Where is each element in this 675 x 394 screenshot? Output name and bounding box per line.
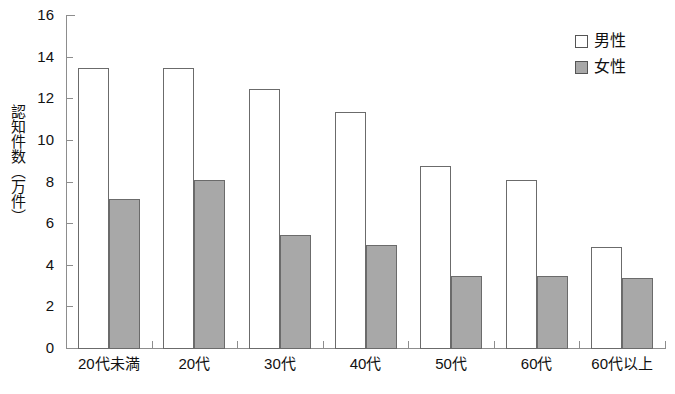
bar-female [366, 245, 397, 349]
y-tick-label: 2 [26, 298, 54, 313]
bar-female [451, 276, 482, 349]
y-tick-label: 14 [26, 49, 54, 64]
legend-swatch-male-icon [575, 35, 588, 48]
legend-swatch-female-icon [575, 61, 588, 74]
bar-male [506, 180, 537, 349]
bar-female [622, 278, 653, 349]
y-tick-label: 0 [26, 340, 54, 355]
y-tick-label: 16 [26, 7, 54, 22]
bar-male [249, 89, 280, 349]
y-tick-label: 4 [26, 257, 54, 272]
bar-male [78, 68, 109, 349]
bar-female [194, 180, 225, 349]
y-axis-title: 認知件数（万件） [4, 104, 26, 224]
legend-item-female: 女性 [575, 54, 626, 80]
bar-chart: 認知件数（万件） 1614121086420 20代未満20代30代40代50代… [0, 0, 675, 394]
bar-male [420, 166, 451, 349]
y-tick-label: 8 [26, 174, 54, 189]
chart-legend: 男性 女性 [575, 28, 626, 80]
bar-female [280, 235, 311, 349]
y-tick-label: 10 [26, 132, 54, 147]
y-tick-label: 12 [26, 90, 54, 105]
legend-label-male: 男性 [594, 33, 626, 49]
bar-male [591, 247, 622, 349]
bar-female [109, 199, 140, 349]
bar-male [335, 112, 366, 349]
legend-label-female: 女性 [594, 59, 626, 75]
bar-female [537, 276, 568, 349]
bar-male [163, 68, 194, 349]
y-tick-label: 6 [26, 215, 54, 230]
x-tick-label: 60代以上 [562, 355, 675, 373]
legend-item-male: 男性 [575, 28, 626, 54]
x-tick-mark [665, 341, 666, 349]
